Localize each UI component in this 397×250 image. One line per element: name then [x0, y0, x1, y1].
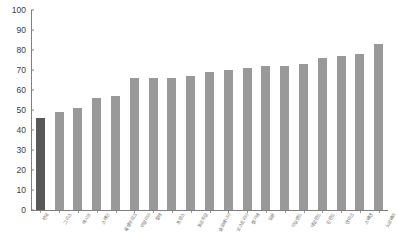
y-axis-tick-label: 0 — [21, 206, 31, 215]
bar-slot — [144, 10, 163, 210]
bar[interactable] — [355, 54, 364, 210]
x-axis-tick-mark — [247, 211, 248, 213]
bar-slot — [257, 10, 276, 210]
bar-slot — [351, 10, 370, 210]
y-axis-tick-label: 60 — [17, 86, 31, 95]
x-axis-tick-mark — [266, 211, 267, 213]
x-axis-tick-mark — [172, 211, 173, 213]
x-axis-tick-mark — [304, 211, 305, 213]
bar-slot — [31, 10, 50, 210]
x-axis-tick-mark — [285, 211, 286, 213]
y-axis-tick-label: 90 — [17, 26, 31, 35]
x-axis-label-slot: 프랑스 — [163, 211, 182, 250]
bar-slot — [163, 10, 182, 210]
bar[interactable] — [73, 108, 82, 210]
y-axis-tick-label: 10 — [17, 186, 31, 195]
bar[interactable] — [261, 66, 270, 210]
x-axis-tick-mark — [210, 211, 211, 213]
y-axis-tick-label: 30 — [17, 146, 31, 155]
x-axis-label-slot: 멕시코 — [69, 211, 88, 250]
x-axis-tick-mark — [40, 211, 41, 213]
x-axis-label-slot: 룩셈부르크 — [106, 211, 125, 250]
bar-slot — [294, 10, 313, 210]
x-axis-label-slot: 노르웨이 — [369, 211, 388, 250]
bar[interactable] — [224, 70, 233, 210]
x-axis-tick-mark — [116, 211, 117, 213]
y-axis-tick-label: 40 — [17, 126, 31, 135]
bar-slot — [238, 10, 257, 210]
x-axis-tick-mark — [341, 211, 342, 213]
x-axis-tick-mark — [97, 211, 98, 213]
bar[interactable] — [374, 44, 383, 210]
bar[interactable] — [186, 76, 195, 210]
y-axis-tick-label: 100 — [12, 6, 31, 15]
bar-slot — [87, 10, 106, 210]
bar-slot — [181, 10, 200, 210]
bar-slot — [125, 10, 144, 210]
y-axis-tick-label: 70 — [17, 66, 31, 75]
bar[interactable] — [167, 78, 176, 210]
x-axis-tick-mark — [78, 211, 79, 213]
bar-series — [31, 10, 388, 210]
bar[interactable] — [243, 68, 252, 210]
x-axis-tick-mark — [59, 211, 60, 213]
x-axis-label-slot: 슬로베니아 — [200, 211, 219, 250]
x-axis-tick-mark — [153, 211, 154, 213]
x-axis-label-slot: 일본 — [257, 211, 276, 250]
x-axis-label-slot: 칠레 — [144, 211, 163, 250]
bar-slot — [50, 10, 69, 210]
y-axis-tick-label: 50 — [17, 106, 31, 115]
bar[interactable] — [299, 64, 308, 210]
bar[interactable] — [36, 118, 45, 210]
bar[interactable] — [92, 98, 101, 210]
bar-slot — [200, 10, 219, 210]
x-axis-labels: 한국그리스멕시코스페인룩셈부르크이탈리아칠레프랑스포르투갈슬로베니아오스트리아벨… — [31, 211, 388, 250]
x-axis-label-slot: 오스트리아 — [219, 211, 238, 250]
bar[interactable] — [149, 78, 158, 210]
x-axis-label-slot: 그리스 — [50, 211, 69, 250]
bar-slot — [313, 10, 332, 210]
bar-slot — [106, 10, 125, 210]
bar[interactable] — [318, 58, 327, 210]
y-axis-tick-label: 20 — [17, 166, 31, 175]
x-axis-label-slot: 스페인 — [87, 211, 106, 250]
bar[interactable] — [130, 78, 139, 210]
bar-slot — [369, 10, 388, 210]
bar[interactable] — [280, 66, 289, 210]
x-axis-label-slot: 핀란드 — [313, 211, 332, 250]
bar-slot — [69, 10, 88, 210]
x-axis-label-slot: 벨기에 — [238, 211, 257, 250]
x-axis-tick-mark — [134, 211, 135, 213]
x-axis-tick-mark — [191, 211, 192, 213]
x-axis-tick-mark — [228, 211, 229, 213]
bar[interactable] — [111, 96, 120, 210]
bar-slot — [275, 10, 294, 210]
x-axis-label-slot: 아일랜드 — [275, 211, 294, 250]
bar-slot — [332, 10, 351, 210]
x-axis-label-slot: 한국 — [31, 211, 50, 250]
bar[interactable] — [55, 112, 64, 210]
x-axis-tick-mark — [379, 211, 380, 213]
x-axis-tick-label: 노르웨이 — [385, 213, 397, 229]
x-axis-tick-mark — [360, 211, 361, 213]
x-axis-label-slot: 포르투갈 — [181, 211, 200, 250]
y-axis-tick-label: 80 — [17, 46, 31, 55]
bar-slot — [219, 10, 238, 210]
x-axis-label-slot: 덴마크 — [332, 211, 351, 250]
bar[interactable] — [337, 56, 346, 210]
x-axis-tick-mark — [322, 211, 323, 213]
x-axis-label-slot: 이탈리아 — [125, 211, 144, 250]
bar[interactable] — [205, 72, 214, 210]
x-axis-label-slot: 스웨덴 — [351, 211, 370, 250]
x-axis-label-slot: 네덜란드 — [294, 211, 313, 250]
